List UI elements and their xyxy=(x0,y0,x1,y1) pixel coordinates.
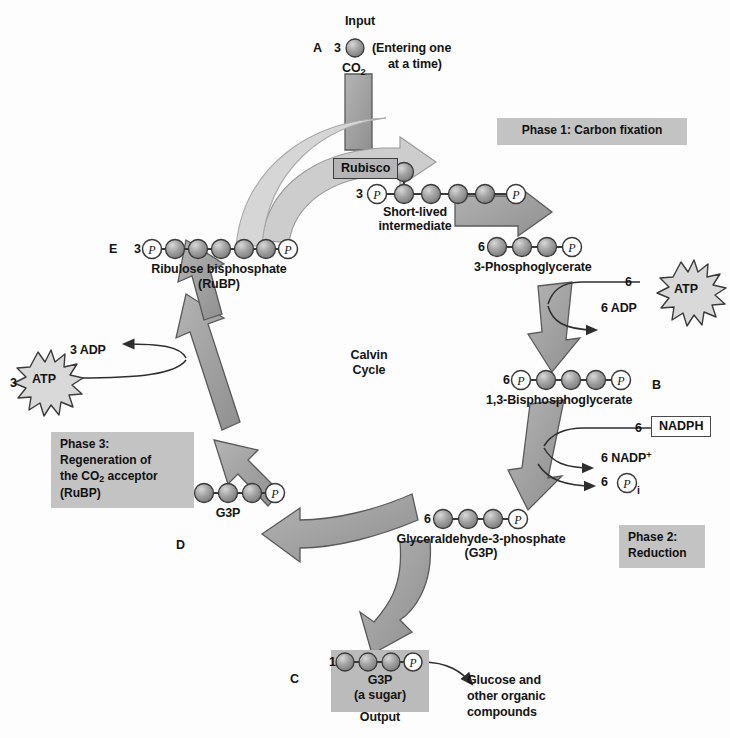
pi-subscript: i xyxy=(637,484,640,496)
svg-text:P: P xyxy=(147,243,156,257)
intermediate-count: 3 xyxy=(356,187,363,202)
calvin-cycle-diagram: P P P P P xyxy=(0,0,730,738)
three-pg-count: 6 xyxy=(478,240,485,255)
g3p6-name-line2: (G3P) xyxy=(465,546,498,561)
adp-left-label: 3 ADP xyxy=(70,343,106,358)
marker-c: C xyxy=(290,672,299,687)
nadph-box: NADPH xyxy=(651,416,711,437)
svg-text:P: P xyxy=(270,487,279,501)
nadp-plus-label: 6 NADP+ xyxy=(601,450,652,466)
atp-left-count: 3 xyxy=(10,376,17,391)
calvin-cycle-label-line1: Calvin xyxy=(351,348,388,363)
phase-3-banner: Phase 3:Regeneration ofthe CO2 acceptor(… xyxy=(51,432,194,508)
intermediate-name-line2: intermediate xyxy=(378,219,451,234)
g3p-output-sugar: (a sugar) xyxy=(354,688,406,703)
glucose-line3: compounds xyxy=(467,705,537,720)
svg-text:P: P xyxy=(516,374,525,388)
marker-d: D xyxy=(176,538,185,553)
chain-1-3-bisphosphoglycerate: P P xyxy=(512,371,631,390)
svg-text:P: P xyxy=(616,374,625,388)
pi-count: 6 xyxy=(601,475,608,490)
svg-text:P: P xyxy=(513,513,522,527)
g3p-to-regeneration-arrow xyxy=(262,494,418,562)
svg-text:P: P xyxy=(567,241,576,255)
input-title: Input xyxy=(345,14,375,29)
chain-3-phosphoglycerate: P xyxy=(488,238,582,257)
nadph-count: 6 xyxy=(635,421,642,436)
inorganic-phosphate-symbol: P xyxy=(618,474,637,493)
chain-glyceraldehyde-3-phosphate: P xyxy=(434,510,528,529)
g3p-to-output-arrow xyxy=(360,540,430,654)
g3p6-name-line1: Glyceraldehyde-3-phosphate xyxy=(397,532,566,547)
atp-right-label: ATP xyxy=(674,282,698,297)
intermediate-name-line1: Short-lived xyxy=(383,205,447,220)
svg-text:P: P xyxy=(283,243,292,257)
bpg-name: 1,3-Bisphosphoglycerate xyxy=(486,393,632,408)
marker-a: A xyxy=(313,41,322,56)
co2-input-arrow xyxy=(345,74,372,150)
chain-ribulose-bisphosphate: P P xyxy=(143,240,298,259)
three-pg-name: 3-Phosphoglycerate xyxy=(474,260,592,275)
glucose-line1: Glucose and xyxy=(467,673,541,688)
g3p-output-count: 1 xyxy=(329,655,336,670)
co2-note-line1: (Entering one xyxy=(372,41,451,56)
marker-b: B xyxy=(652,378,661,393)
glucose-line2: other organic xyxy=(467,689,546,704)
output-to-glucose-arrow xyxy=(422,662,472,684)
phase-1-banner: Phase 1: Carbon fixation xyxy=(497,118,687,145)
bpg-count: 6 xyxy=(503,373,510,388)
calvin-cycle-label-line2: Cycle xyxy=(353,363,386,378)
co2-formula: CO2 xyxy=(342,61,366,77)
molecule-co2-sphere xyxy=(346,39,364,57)
g3p5-name: G3P xyxy=(216,506,241,521)
rubp-name-line2: (RuBP) xyxy=(198,277,240,292)
chain-g3p-regeneration: P xyxy=(195,484,285,503)
g3p-output-name: G3P xyxy=(368,673,393,688)
output-label: Output xyxy=(360,710,400,725)
svg-text:P: P xyxy=(372,188,381,202)
bpg-to-g3p-arrow xyxy=(508,400,564,510)
rubp-name-line1: Ribulose bisphosphate xyxy=(151,262,286,277)
marker-e: E xyxy=(109,242,117,257)
co2-note-line2: at a time) xyxy=(388,57,442,72)
svg-text:P: P xyxy=(622,477,631,491)
phase-2-banner: Phase 2:Reduction xyxy=(619,525,705,568)
co2-count: 3 xyxy=(334,41,341,56)
adp-right-label: 6 ADP xyxy=(601,301,637,316)
rubp-count: 3 xyxy=(134,242,141,257)
g3p6-count: 6 xyxy=(424,512,431,527)
svg-text:P: P xyxy=(408,657,416,669)
atp-right-count: 6 xyxy=(625,275,632,290)
svg-text:P: P xyxy=(511,188,520,202)
atp-left-label: ATP xyxy=(32,372,56,387)
rubisco-enzyme-box: Rubisco xyxy=(333,158,398,179)
